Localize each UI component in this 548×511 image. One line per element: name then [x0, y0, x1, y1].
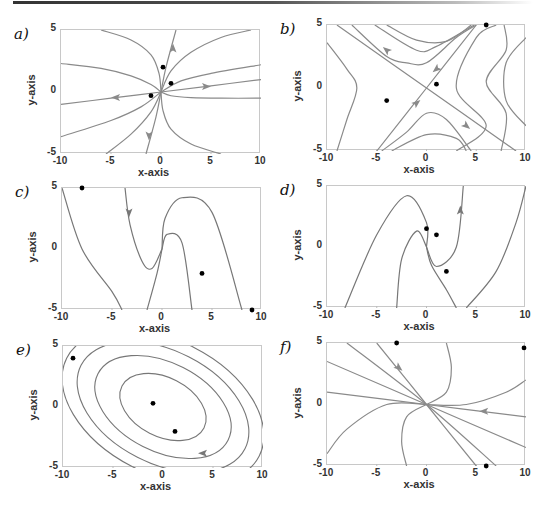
- panel-label: a): [14, 25, 29, 43]
- x-tick-label: 0: [154, 469, 170, 480]
- trajectory: [375, 25, 475, 52]
- initial-point: [434, 82, 439, 87]
- initial-point: [434, 232, 439, 237]
- direction-arrow-icon: [126, 208, 133, 217]
- x-tick-label: -5: [104, 469, 120, 480]
- x-tick-label: 0: [153, 311, 169, 322]
- phase-portrait: [63, 346, 263, 468]
- direction-arrow-icon: [461, 121, 472, 132]
- initial-point: [424, 226, 429, 231]
- plot-area: [61, 187, 261, 309]
- phase-portrait: [62, 188, 262, 310]
- x-tick-label: 5: [467, 467, 483, 478]
- y-tick-label: 5: [306, 335, 322, 346]
- phase-portrait: [327, 343, 526, 466]
- initial-point: [484, 464, 489, 469]
- plot-area: [326, 24, 525, 150]
- initial-point: [169, 81, 174, 86]
- x-axis-label: x-axis: [139, 322, 170, 334]
- y-tick-label: 0: [306, 80, 322, 91]
- y-tick-label: 0: [42, 399, 58, 410]
- y-tick-label: 5: [40, 22, 56, 33]
- initial-point: [80, 186, 85, 191]
- initial-point: [149, 93, 154, 98]
- initial-point: [484, 23, 489, 28]
- panel-label: f): [280, 338, 291, 356]
- y-tick-label: -5: [41, 302, 57, 313]
- x-tick-label: 5: [467, 309, 483, 320]
- trajectory: [62, 188, 122, 310]
- trajectory: [327, 403, 427, 454]
- y-axis-label: y-axis: [26, 222, 38, 272]
- orbit: [109, 360, 218, 454]
- initial-point: [151, 401, 156, 406]
- direction-arrow-icon: [393, 362, 404, 373]
- x-axis-label: x-axis: [404, 163, 435, 175]
- y-axis-label: y-axis: [291, 61, 303, 111]
- phase-portrait: [61, 30, 261, 154]
- initial-point: [522, 346, 527, 351]
- x-tick-label: -5: [368, 152, 384, 163]
- y-tick-label: 0: [306, 397, 322, 408]
- x-axis-label: x-axis: [404, 478, 435, 490]
- y-tick-label: -5: [40, 146, 56, 157]
- y-axis-label: y-axis: [25, 65, 37, 115]
- trajectory: [352, 25, 476, 65]
- panel-label: b): [280, 20, 295, 38]
- x-tick-label: 5: [204, 469, 220, 480]
- initial-point: [444, 269, 449, 274]
- x-tick-label: 5: [202, 155, 218, 166]
- y-tick-label: -5: [42, 460, 58, 471]
- trajectory: [106, 92, 161, 154]
- trajectory: [466, 186, 526, 308]
- x-tick-label: 10: [252, 155, 268, 166]
- trajectory: [61, 63, 161, 92]
- plot-area: [326, 342, 525, 465]
- plot-area: [60, 29, 260, 153]
- trajectory: [427, 343, 452, 405]
- x-tick-label: -5: [102, 155, 118, 166]
- orbit: [78, 334, 248, 479]
- direction-arrow-icon: [411, 97, 422, 108]
- trajectory: [147, 249, 162, 310]
- trajectory: [327, 43, 357, 151]
- y-axis-label: y-axis: [291, 220, 303, 270]
- x-axis-label: x-axis: [138, 166, 169, 178]
- x-axis-label: x-axis: [140, 480, 171, 492]
- y-axis-label: y-axis: [27, 380, 39, 430]
- initial-point: [173, 429, 178, 434]
- trajectory: [377, 25, 477, 151]
- trajectory: [162, 233, 192, 310]
- initial-point: [200, 271, 205, 276]
- plot-area: [326, 185, 525, 307]
- y-tick-label: -5: [306, 143, 322, 154]
- x-tick-label: 5: [203, 311, 219, 322]
- x-tick-label: 10: [517, 152, 533, 163]
- panel-label: e): [16, 341, 31, 359]
- trajectory: [382, 112, 472, 151]
- direction-arrow-icon: [198, 450, 207, 457]
- x-tick-label: 10: [517, 309, 533, 320]
- trajectory: [392, 134, 467, 151]
- trajectory: [161, 92, 261, 98]
- y-tick-label: 5: [42, 338, 58, 349]
- y-axis-label: y-axis: [291, 378, 303, 428]
- trajectory: [161, 92, 221, 154]
- x-tick-label: 5: [467, 152, 483, 163]
- trajectory: [125, 188, 162, 269]
- y-tick-label: -5: [306, 458, 322, 469]
- y-tick-label: 5: [306, 178, 322, 189]
- plot-area: [62, 345, 262, 467]
- y-tick-label: 5: [41, 180, 57, 191]
- trajectory: [427, 186, 464, 267]
- top-rule: [13, 1, 533, 4]
- x-axis-label: x-axis: [404, 320, 435, 332]
- trajectory: [504, 38, 526, 126]
- trajectory: [397, 231, 427, 308]
- direction-arrow-icon: [457, 205, 464, 214]
- x-tick-label: 10: [253, 311, 269, 322]
- x-tick-label: -5: [103, 311, 119, 322]
- y-tick-label: 0: [306, 239, 322, 250]
- x-tick-label: -5: [368, 309, 384, 320]
- panel-label: c): [15, 183, 29, 201]
